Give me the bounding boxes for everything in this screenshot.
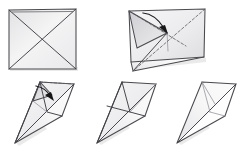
sketch-canvas xyxy=(0,0,250,149)
step-1-inner-edge-top xyxy=(12,12,73,13)
origami-diagram-svg xyxy=(0,0,250,149)
step-2-square-folded-with-arrow xyxy=(129,9,206,71)
step-1-square-with-diagonals xyxy=(9,9,78,71)
